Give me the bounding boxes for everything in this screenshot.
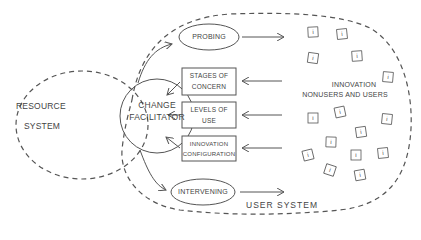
innovation-users-label: INNOVATION NONUSERS AND USERS: [290, 80, 400, 100]
user-symbol-icon: i: [326, 137, 336, 147]
svg-text:i: i: [355, 152, 356, 158]
user-symbol-icon: i: [354, 169, 366, 181]
stages-of-concern-label: STAGES OF CONCERN: [182, 71, 236, 92]
svg-text:i: i: [330, 139, 332, 145]
user-symbol-icon: i: [324, 164, 337, 177]
user-symbol-icon: i: [352, 51, 363, 62]
user-symbol-icon: i: [337, 29, 348, 40]
arrow-stages-to-facilitator: [167, 82, 180, 95]
innovation-configuration-label: INNOVATION CONFIGURATION: [182, 139, 236, 159]
user-symbol-icon: i: [382, 114, 393, 125]
user-system-label: USER SYSTEM: [242, 200, 322, 210]
probing-label: PROBING: [179, 32, 239, 42]
user-symbols: i i i i i i i i i i i i i i i: [302, 27, 393, 181]
user-symbol-icon: i: [308, 27, 319, 38]
user-symbol-icon: i: [351, 150, 361, 160]
resource-system-label: RESOURCE SYSTEM: [16, 101, 72, 131]
user-symbol-icon: i: [308, 113, 318, 123]
arrow-to-intervening: [140, 150, 166, 190]
user-symbol-icon: i: [378, 148, 389, 159]
user-symbol-icon: i: [355, 126, 366, 137]
arrow-config-to-facilitator: [166, 137, 180, 148]
user-symbol-icon: i: [307, 52, 318, 63]
user-symbol-icon: i: [334, 106, 346, 118]
user-symbol-icon: i: [302, 149, 314, 161]
svg-text:i: i: [312, 115, 313, 121]
intervening-label: INTERVENING: [171, 187, 235, 197]
levels-of-use-label: LEVELS OF USE: [182, 105, 236, 126]
